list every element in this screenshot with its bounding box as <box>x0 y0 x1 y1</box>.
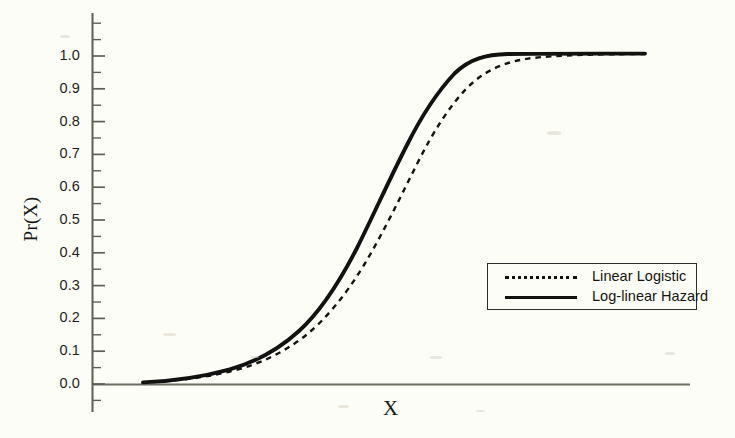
y-tick-label: 0.6 <box>42 178 80 194</box>
legend-label: Linear Logistic <box>592 268 686 284</box>
y-tick-label: 0.2 <box>42 309 80 325</box>
scan-speck <box>547 131 561 135</box>
y-tick-label: 0.8 <box>42 113 80 129</box>
scan-speck <box>665 352 675 355</box>
scan-speck <box>430 356 442 359</box>
scan-speck <box>338 405 349 408</box>
scan-speck <box>250 356 259 358</box>
series-line-log-linear-hazard <box>143 54 645 383</box>
legend-item-log-linear-hazard: Log-linear Hazard <box>488 287 696 307</box>
chart-plot-area <box>0 0 735 438</box>
legend-swatch-dashed-icon <box>505 276 577 283</box>
legend-item-linear-logistic: Linear Logistic <box>488 267 696 287</box>
y-tick-label: 0.5 <box>42 211 80 227</box>
y-tick-label: 0.1 <box>42 342 80 358</box>
legend: Linear Logistic Log-linear Hazard <box>487 263 697 310</box>
series-line-linear-logistic <box>143 54 645 383</box>
y-axis-title: Pr(X) <box>20 196 42 242</box>
y-tick-label: 1.0 <box>42 47 80 63</box>
y-tick-label: 0.7 <box>42 145 80 161</box>
y-tick-label: 0.9 <box>42 80 80 96</box>
scan-speck <box>476 410 485 412</box>
scan-speck <box>163 333 176 336</box>
scan-speck <box>60 35 70 38</box>
y-tick-label: 0.0 <box>42 375 80 391</box>
y-axis-minor-ticks <box>93 23 102 400</box>
y-tick-label: 0.3 <box>42 277 80 293</box>
legend-label: Log-linear Hazard <box>592 288 708 304</box>
y-tick-label: 0.4 <box>42 244 80 260</box>
x-axis-title: X <box>383 396 398 421</box>
legend-swatch-solid-icon <box>505 296 577 303</box>
figure-canvas: 1.0 0.9 0.8 0.7 0.6 0.5 0.4 0.3 0.2 0.1 … <box>0 0 735 438</box>
